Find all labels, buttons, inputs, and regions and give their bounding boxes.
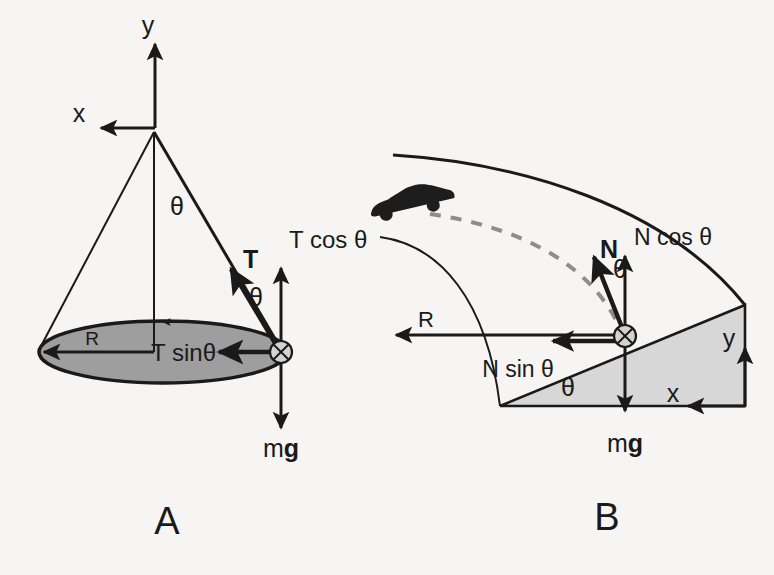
panel-b-weight-g: g (628, 429, 643, 457)
panel-b-bank-angle-label: θ (561, 373, 575, 401)
panel-a-y-axis-label: y (142, 11, 155, 39)
panel-a-weight-g: g (284, 434, 299, 462)
panel-b-label: B (594, 496, 619, 538)
panel-b-group: R N sin θ N cos θ N θ mg θ (367, 155, 745, 538)
tension-horizontal-label: T sinθ (151, 339, 216, 366)
normal-vertical-label: N cos θ (634, 224, 712, 250)
pendulum-bob (270, 341, 292, 363)
physics-figure: y x θ R T sinθ T cos θ (0, 0, 774, 575)
tension-vertical-label: T cos θ (289, 226, 367, 253)
panel-b-radius-label: R (418, 307, 434, 332)
car-icon (367, 178, 457, 223)
panel-a-radius-label: R (85, 328, 99, 349)
panel-a-label: A (154, 500, 180, 542)
cone-left-edge (40, 132, 154, 348)
cone-right-edge-string (154, 132, 281, 349)
panel-a-axes: y x (73, 11, 155, 128)
tension-vector-label: T (243, 245, 258, 273)
panel-a-x-axis-label: x (73, 99, 86, 127)
figure-canvas: y x θ R T sinθ T cos θ (0, 0, 774, 575)
car-point-mass (614, 325, 636, 347)
panel-b-weight-label: mg (607, 429, 643, 457)
panel-a-cone-angle-label: θ (170, 192, 184, 220)
panel-b-weight-m: m (607, 429, 628, 457)
panel-b-x-axis-label: x (667, 379, 680, 407)
panel-b-y-axis-label: y (723, 324, 736, 352)
panel-a-weight-m: m (263, 434, 284, 462)
panel-a-weight-label: mg (263, 434, 299, 462)
car-trajectory-dashed (430, 214, 616, 320)
normal-horizontal-label: N sin θ (482, 356, 554, 382)
panel-a-group: y x θ R T sinθ T cos θ (39, 11, 367, 542)
panel-b-normal-angle-label: θ (613, 255, 627, 283)
panel-a-string-angle-label: θ (249, 283, 263, 311)
